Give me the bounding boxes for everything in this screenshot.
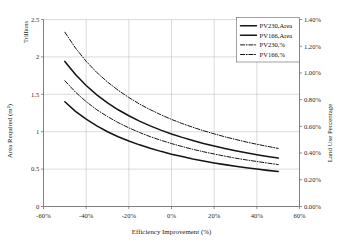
chart-canvas: 00.511.522.5 0.00%0.20%0.40%0.60%0.80%1.… [0,0,341,243]
y-tick-label: 2.5 [31,16,40,23]
y2-tick-label: 1.00% [304,69,322,76]
y2-tick-label: 0.80% [304,96,322,103]
y2-tick-label: 0.60% [304,123,322,130]
y-axis-title: Area Required (m²) [6,104,14,158]
y2-tick-label: 0.40% [304,149,322,156]
legend-label-0: PV230,Area [260,22,293,29]
x-tick-label: 20% [208,212,221,219]
x-tick-label: 40% [251,212,264,219]
y2-tick-label: 1.20% [304,43,322,50]
x-tick-label: 60% [293,212,306,219]
chart-figure: 00.511.522.5 0.00%0.20%0.40%0.60%0.80%1.… [0,0,341,243]
y-tick-label: 0.5 [31,165,40,172]
y-tick-label: 1 [36,128,39,135]
x-tick-label: 0% [167,212,176,219]
y-tick-label: 2 [36,53,39,60]
x-tick-label: -40% [79,212,94,219]
x-axis-title: Efficiency Improvement (%) [132,228,211,236]
y2-axis-title: Land Use Percentage [326,104,333,163]
y2-tick-label: 0.20% [304,176,322,183]
y-axis-unit-note: Trillions [22,21,29,43]
legend-label-1: PV166,Area [260,32,293,39]
y2-tick-label: 1.40% [304,16,322,23]
chart-legend[interactable]: PV230,AreaPV166,AreaPV230,%PV166,% [237,18,300,63]
legend-label-2: PV230,% [260,41,286,48]
y-tick-label: 1.5 [31,91,40,98]
y2-tick-label: 0.00% [304,203,322,210]
x-tick-label: -20% [122,212,137,219]
x-tick-label: -60% [36,212,51,219]
legend-label-3: PV166,% [260,51,286,58]
